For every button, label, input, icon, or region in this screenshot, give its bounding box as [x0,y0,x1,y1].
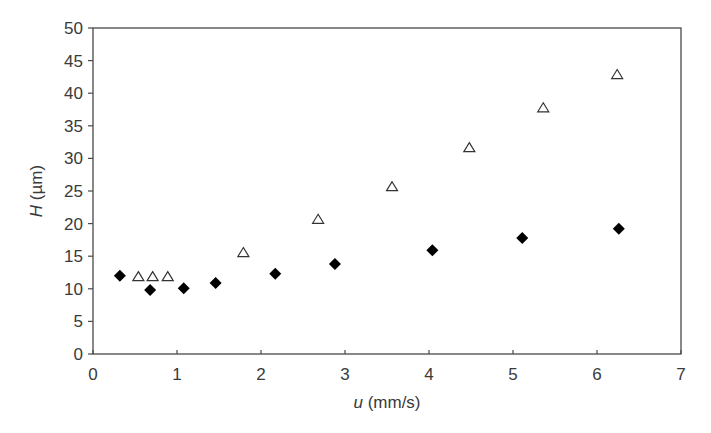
y-tick-label: 30 [64,149,83,168]
diamond-marker [210,277,222,289]
x-tick-label: 3 [340,365,349,384]
x-tick-label: 1 [172,365,181,384]
triangle-marker [464,143,475,152]
diamond-marker [613,223,625,235]
y-tick-label: 40 [64,84,83,103]
triangle-marker [612,70,623,79]
x-tick-label: 5 [508,365,517,384]
y-tick-label: 0 [74,345,83,364]
y-tick-label: 5 [74,312,83,331]
x-axis: 01234567 [88,350,685,384]
diamond-marker [178,282,190,294]
y-tick-label: 20 [64,215,83,234]
x-axis-label: u (mm/s) [353,393,420,412]
triangle-marker [133,272,144,281]
y-tick-label: 50 [64,19,83,38]
diamond-marker [329,258,341,270]
triangle-marker [238,248,249,257]
triangle-marker [313,214,324,223]
triangle-marker [387,182,398,191]
x-tick-label: 0 [88,365,97,384]
diamond-marker [426,244,438,256]
scatter-chart: 05101520253035404550 01234567 u (mm/s) H… [0,0,711,433]
diamond-marker [516,232,528,244]
diamond-marker [269,268,281,280]
diamond-marker [144,284,156,296]
series-filled-diamonds [114,223,625,296]
data-points [114,70,625,297]
x-tick-label: 4 [424,365,433,384]
x-tick-label: 2 [256,365,265,384]
series-open-triangles [133,70,623,281]
x-tick-label: 6 [592,365,601,384]
triangle-marker [538,103,549,112]
y-tick-label: 45 [64,52,83,71]
y-axis-label: H (µm) [27,165,46,217]
diamond-marker [114,270,126,282]
y-tick-label: 15 [64,247,83,266]
y-tick-label: 25 [64,182,83,201]
triangle-marker [162,272,173,281]
triangle-marker [147,272,158,281]
x-tick-label: 7 [676,365,685,384]
y-tick-label: 10 [64,280,83,299]
y-axis: 05101520253035404550 [64,19,93,364]
y-tick-label: 35 [64,117,83,136]
